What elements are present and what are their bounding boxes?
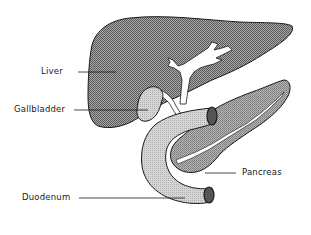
- duodenum-lower-lumen: [204, 187, 214, 203]
- label-liver: Liver: [41, 66, 63, 76]
- label-pancreas: Pancreas: [242, 167, 282, 177]
- label-gallbladder: Gallbladder: [14, 104, 65, 114]
- label-duodenum: Duodenum: [22, 192, 70, 202]
- duodenum-upper-lumen: [207, 107, 217, 125]
